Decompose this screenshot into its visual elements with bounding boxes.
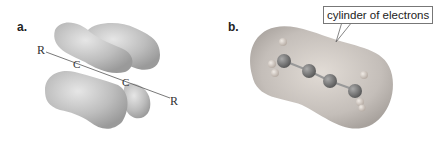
pi-lobes-drawing bbox=[0, 0, 212, 143]
atom-r-left: R bbox=[37, 43, 45, 58]
callout-cylinder-of-electrons: cylinder of electrons bbox=[323, 6, 433, 24]
atom-c-left: C bbox=[73, 58, 80, 70]
panel-a-label: a. bbox=[17, 20, 27, 34]
atom-c-right: C bbox=[122, 76, 129, 88]
panel-b-label: b. bbox=[228, 20, 239, 34]
atom-r-right: R bbox=[170, 94, 178, 109]
panel-b-electron-cylinder: b. cylinder of electrons bbox=[212, 0, 425, 143]
panel-a-orbital-lobes: a. R C C R bbox=[0, 0, 212, 143]
